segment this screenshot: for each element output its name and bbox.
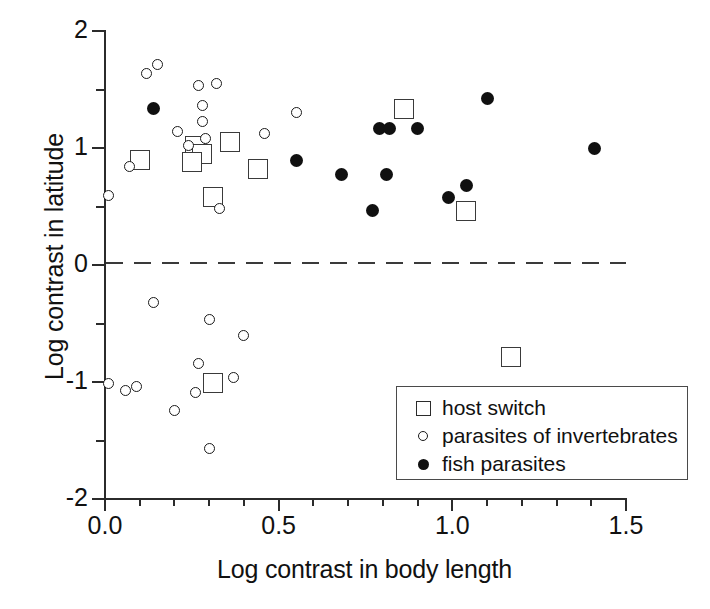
x-tick-major (451, 498, 453, 511)
y-tick-label: 2 (18, 17, 88, 42)
x-tick-label: 0.5 (239, 511, 319, 540)
x-tick-major (104, 498, 106, 511)
scatter-plot-figure: Log contrast in latitude Log contrast in… (0, 0, 710, 609)
data-point-circle-filled (588, 142, 601, 155)
x-tick-minor (590, 498, 592, 506)
data-point-circle-filled (366, 204, 379, 217)
y-tick-major (92, 147, 105, 149)
x-tick-label: 1.5 (586, 511, 666, 540)
x-tick-minor (208, 498, 210, 506)
data-point-circle-filled (380, 168, 393, 181)
data-point-circle-filled (290, 154, 303, 167)
legend-label: fish parasites (442, 452, 566, 476)
y-tick-label: 1 (18, 134, 88, 159)
legend-marker-glyph (418, 459, 429, 470)
data-point-circle-open (238, 330, 249, 341)
y-tick-minor (96, 440, 105, 442)
data-point-square-open (220, 132, 240, 152)
data-point-square-open (248, 159, 268, 179)
y-tick-major (92, 30, 105, 32)
data-point-circle-open (204, 443, 215, 454)
data-point-circle-open (259, 128, 270, 139)
data-point-circle-open (103, 190, 114, 201)
x-tick-minor (173, 498, 175, 506)
y-tick-minor (96, 323, 105, 325)
data-point-circle-open (204, 314, 215, 325)
data-point-circle-filled (442, 191, 455, 204)
legend-marker-glyph (416, 401, 431, 416)
legend-marker-circle-filled (411, 459, 435, 470)
x-tick-minor (382, 498, 384, 506)
data-point-square-open (501, 347, 521, 367)
data-point-circle-open (172, 126, 183, 137)
data-point-circle-filled (147, 102, 160, 115)
data-point-circle-open (291, 107, 302, 118)
data-point-circle-open (197, 100, 208, 111)
x-tick-minor (312, 498, 314, 506)
data-point-circle-open (169, 405, 180, 416)
y-tick-major (92, 264, 105, 266)
x-tick-label: 0.0 (65, 511, 145, 540)
x-tick-minor (556, 498, 558, 506)
x-tick-major (278, 498, 280, 511)
data-point-circle-open (190, 387, 201, 398)
x-tick-major (625, 498, 627, 511)
data-point-circle-open (211, 78, 222, 89)
data-point-circle-filled (481, 92, 494, 105)
legend-label: parasites of invertebrates (442, 424, 678, 448)
data-point-circle-open (200, 133, 211, 144)
y-tick-label: -1 (18, 368, 88, 393)
y-tick-label: 0 (18, 251, 88, 276)
data-point-circle-open (148, 297, 159, 308)
legend-marker-square-open (411, 401, 435, 416)
data-point-circle-filled (383, 122, 396, 135)
legend-marker-glyph (418, 431, 428, 441)
data-point-circle-filled (411, 122, 424, 135)
data-point-circle-filled (460, 179, 473, 192)
legend-label: host switch (442, 396, 546, 420)
data-point-square-open (456, 201, 476, 221)
x-tick-label: 1.0 (412, 511, 492, 540)
legend-item: parasites of invertebrates (411, 423, 678, 449)
x-tick-minor (243, 498, 245, 506)
legend-box: host switchparasites of invertebratesfis… (396, 386, 688, 480)
x-tick-minor (417, 498, 419, 506)
data-point-square-open (203, 373, 223, 393)
data-point-circle-open (193, 80, 204, 91)
x-tick-minor (521, 498, 523, 506)
data-point-circle-open (152, 59, 163, 70)
data-point-circle-open (124, 161, 135, 172)
x-tick-minor (139, 498, 141, 506)
data-point-square-open (394, 99, 414, 119)
data-point-circle-open (141, 68, 152, 79)
data-point-circle-open (228, 372, 239, 383)
data-point-circle-open (193, 358, 204, 369)
x-axis-line (104, 498, 627, 500)
legend-item: fish parasites (411, 451, 566, 477)
zero-reference-line (106, 262, 626, 264)
legend-marker-circle-open (411, 431, 435, 441)
data-point-circle-open (131, 381, 142, 392)
data-point-circle-open (183, 140, 194, 151)
data-point-square-open (182, 152, 202, 172)
data-point-circle-open (197, 116, 208, 127)
legend-item: host switch (411, 395, 546, 421)
data-point-circle-open (120, 385, 131, 396)
x-tick-minor (486, 498, 488, 506)
y-tick-minor (96, 206, 105, 208)
y-tick-label: -2 (18, 485, 88, 510)
x-tick-minor (347, 498, 349, 506)
x-axis-title: Log contrast in body length (104, 555, 625, 584)
y-tick-minor (96, 89, 105, 91)
data-point-circle-filled (335, 168, 348, 181)
data-point-circle-open (214, 203, 225, 214)
data-point-circle-open (103, 378, 114, 389)
